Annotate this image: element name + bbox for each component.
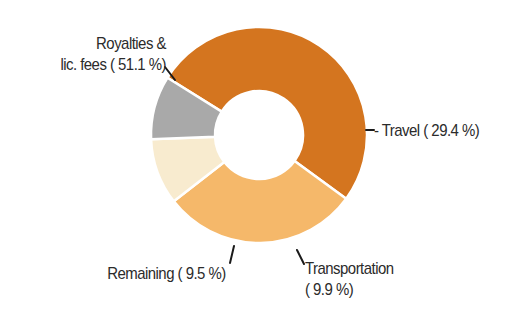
label-transportation: Transportation ( 9.9 %) xyxy=(305,258,394,300)
label-remaining-line1: Remaining ( 9.5 %) xyxy=(107,263,226,284)
label-royalties-line2: lic. fees ( 51.1 %) xyxy=(60,54,166,75)
label-travel: - Travel ( 29.4 %) xyxy=(374,120,479,141)
donut-slices xyxy=(151,27,367,243)
label-royalties: Royalties & lic. fees ( 51.1 %) xyxy=(60,33,166,75)
label-transportation-line2: ( 9.9 %) xyxy=(305,279,394,300)
leader-line-transportation xyxy=(297,250,304,264)
label-royalties-line1: Royalties & xyxy=(60,33,166,54)
label-remaining: Remaining ( 9.5 %) xyxy=(107,263,226,284)
label-travel-line1: - Travel ( 29.4 %) xyxy=(374,120,479,141)
label-transportation-line1: Transportation xyxy=(305,258,394,279)
leader-line-remaining xyxy=(230,246,234,263)
